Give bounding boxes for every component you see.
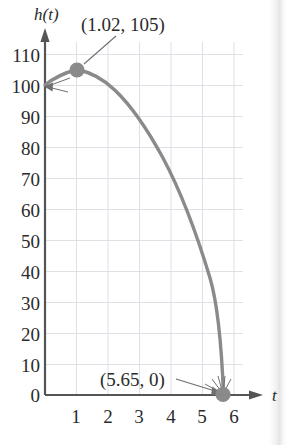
- x-axis-tick-labels: 1 2 3 4 5 6: [71, 406, 239, 427]
- y-intercept-pointer: [44, 78, 70, 92]
- x-tick-label: 1: [71, 406, 81, 427]
- y-tick-label: 20: [21, 324, 40, 345]
- x-tick-label: 3: [134, 406, 144, 427]
- grid-horizontal: [45, 55, 243, 365]
- y-tick-label: 70: [21, 169, 40, 190]
- y-tick-label: 30: [21, 293, 40, 314]
- grid-lines: [45, 42, 243, 395]
- peak-leader-line: [84, 36, 116, 64]
- y-tick-label: 80: [21, 138, 40, 159]
- parabola-chart: 110 100 90 80 70 60 50 40 30 20 10 0 1 2…: [0, 0, 289, 445]
- y-tick-label: 10: [21, 355, 40, 376]
- x-tick-label: 2: [103, 406, 113, 427]
- y-axis-tick-labels: 110 100 90 80 70 60 50 40 30 20 10 0: [12, 45, 41, 406]
- graph-figure: 110 100 90 80 70 60 50 40 30 20 10 0 1 2…: [0, 0, 289, 445]
- parabola-curve: [45, 70, 224, 396]
- y-tick-label: 0: [31, 385, 41, 406]
- y-axis-label: h(t): [34, 5, 59, 24]
- axis-lines: [40, 28, 263, 400]
- x-tick-label: 5: [197, 406, 207, 427]
- data-point-root[interactable]: [215, 387, 230, 402]
- x-tick-label: 4: [166, 406, 176, 427]
- y-tick-label: 90: [21, 107, 40, 128]
- x-axis-arrowhead: [249, 390, 263, 399]
- data-point-peak[interactable]: [69, 62, 84, 77]
- y-tick-label: 50: [21, 231, 40, 252]
- y-tick-label: 110: [12, 45, 40, 66]
- y-tick-label: 40: [21, 262, 40, 283]
- y-axis-arrowhead: [40, 28, 49, 42]
- x-axis-label: t: [272, 386, 278, 405]
- y-tick-label: 60: [21, 200, 40, 221]
- annotation-root: (5.65, 0): [100, 369, 165, 391]
- x-tick-label: 6: [229, 406, 239, 427]
- grid-vertical: [77, 42, 235, 395]
- annotation-peak: (1.02, 105): [81, 14, 165, 36]
- y-tick-label: 100: [12, 76, 41, 97]
